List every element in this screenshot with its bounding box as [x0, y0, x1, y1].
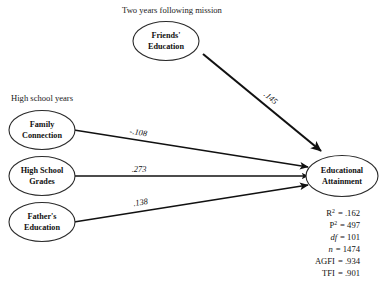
path-friends-to-attainment: .145: [203, 54, 321, 151]
stat-tfi-value: = .901: [338, 268, 360, 278]
node-label-high-school-grades-line2: Grades: [29, 177, 54, 186]
path-line-friends: [203, 54, 321, 151]
stat-n: n= 1474: [329, 244, 361, 254]
path-diagram-canvas: Two years following mission High school …: [0, 0, 386, 289]
node-label-friends-education-line1: Friends': [151, 31, 180, 40]
stat-tfi: TFI= .901: [322, 268, 360, 278]
stat-r-squared: R2= .162: [326, 208, 360, 218]
stat-tfi-key: TFI: [322, 268, 335, 278]
path-diagram-figure: Two years following mission High school …: [0, 0, 386, 289]
node-label-educational-attainment-line2: Attainment: [322, 177, 362, 186]
group-header-top: Two years following mission: [122, 5, 223, 15]
coefficient-label-father: .138: [133, 197, 150, 208]
stat-r-squared-value: = .162: [338, 208, 360, 218]
node-label-family-connection-line1: Family: [30, 120, 55, 129]
coefficient-label-grades: .273: [132, 165, 147, 174]
fit-statistics-block: R2= .162 P2= 497 df= 101 n= 1474 AGFI= .…: [315, 208, 361, 278]
stat-p-squared-value: = 497: [340, 220, 361, 230]
node-high-school-grades: High School Grades: [9, 157, 75, 196]
path-line-family: [74, 130, 308, 167]
stat-n-key: n: [329, 244, 333, 254]
stat-agfi: AGFI= .934: [315, 256, 361, 266]
node-fathers-education: Father's Education: [9, 203, 75, 242]
coefficient-label-family: -.108: [129, 127, 148, 139]
stat-agfi-value: = .934: [338, 256, 361, 266]
path-line-father: [74, 185, 308, 222]
path-grades-to-attainment: .273: [74, 165, 308, 176]
node-label-fathers-education-line2: Education: [24, 223, 60, 232]
path-family-to-attainment: -.108: [74, 127, 308, 167]
node-friends-education: Friends' Education: [133, 22, 199, 61]
node-label-high-school-grades-line1: High School: [21, 166, 64, 175]
node-label-educational-attainment-line1: Educational: [321, 166, 364, 175]
node-label-fathers-education-line1: Father's: [27, 212, 56, 221]
node-label-family-connection-line2: Connection: [22, 131, 62, 140]
path-father-to-attainment: .138: [74, 185, 308, 222]
group-header-left: High school years: [11, 93, 74, 103]
node-label-friends-education-line2: Education: [148, 42, 184, 51]
stat-df: df= 101: [330, 232, 360, 242]
node-family-connection: Family Connection: [9, 111, 75, 150]
stat-r-squared-sup: 2: [332, 208, 335, 214]
stat-n-value: = 1474: [336, 244, 361, 254]
stat-p-squared-sup: 2: [334, 220, 337, 226]
node-educational-attainment: Educational Attainment: [306, 156, 378, 197]
stat-df-value: = 101: [340, 232, 360, 242]
stat-df-key: df: [330, 232, 338, 242]
stat-p-squared: P2= 497: [329, 220, 360, 230]
stat-agfi-key: AGFI: [315, 256, 335, 266]
